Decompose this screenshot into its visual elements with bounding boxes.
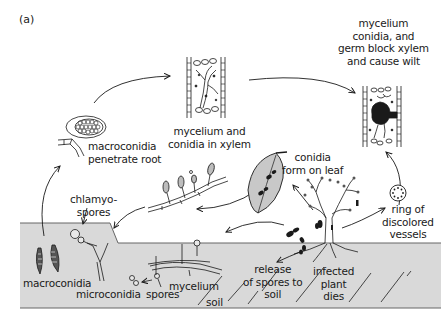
label-mycelium: mycelium — [169, 280, 219, 293]
label-line: conidia — [282, 151, 343, 164]
panel-label: (a) — [19, 13, 34, 26]
label-line: vessels — [382, 228, 434, 241]
label-microconidia: microconidia — [76, 288, 141, 301]
label-line: conidia in xylem — [168, 138, 251, 151]
label-line: soil — [243, 288, 303, 301]
label-line: spores — [70, 206, 117, 219]
label-line: chlamyo- — [70, 193, 117, 206]
disease-cycle-diagram: (a) macroconidia penetrate root mycelium… — [0, 0, 441, 327]
label-mycelium-conidia-xylem: mycelium and conidia in xylem — [168, 125, 251, 150]
label-line: dies — [313, 290, 354, 303]
label-line: ring of — [382, 203, 434, 216]
label-line: germ block xylem — [338, 42, 429, 55]
conidiophores-illustration — [148, 162, 228, 212]
label-line: plant — [313, 278, 354, 291]
label-infected-plant-dies: infected plant dies — [313, 265, 354, 303]
label-ring-discolored-vessels: ring of discolored vessels — [382, 203, 434, 241]
label-line: form on leaf — [282, 164, 343, 177]
blocked-xylem-illustration — [363, 86, 401, 147]
vessel-ring-icon — [390, 185, 406, 201]
label-germ-block-xylem: mycelium conidia, and germ block xylem a… — [338, 17, 429, 67]
label-line: macroconidia — [88, 140, 161, 153]
label-release-of-spores: release of spores to soil — [243, 263, 303, 301]
label-line: conidia, and — [338, 30, 429, 43]
label-line: mycelium — [338, 17, 429, 30]
label-line: discolored — [382, 216, 434, 229]
label-line: of spores to — [243, 276, 303, 289]
label-line: mycelium and — [168, 125, 251, 138]
label-line: infected — [313, 265, 354, 278]
label-soil: soil — [206, 296, 223, 309]
label-line: release — [243, 263, 303, 276]
label-macroconidia-penetrate-root: macroconidia penetrate root — [88, 140, 161, 165]
xylem-mycelium-illustration — [187, 57, 225, 118]
label-chlamydospores: chlamyo- spores — [70, 193, 117, 218]
label-line: penetrate root — [88, 153, 161, 166]
label-conidia-form-on-leaf: conidia form on leaf — [282, 151, 343, 176]
label-line: and cause wilt — [338, 55, 429, 68]
